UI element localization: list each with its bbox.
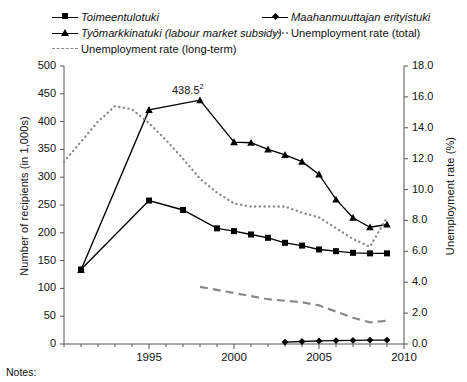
series-marker-2 bbox=[350, 337, 357, 344]
series-line-1 bbox=[81, 100, 387, 270]
y2-axis-tick-label: 8.0 bbox=[412, 213, 446, 225]
series-marker-0 bbox=[214, 225, 220, 231]
y-axis-tick-label: 350 bbox=[24, 142, 56, 154]
y-axis-tick-label: 150 bbox=[24, 254, 56, 266]
y-axis-tick-label: 250 bbox=[24, 198, 56, 210]
x-axis-tick-label: 2010 bbox=[382, 351, 426, 363]
peak-value-annotation: 438.52 bbox=[172, 82, 204, 96]
y2-axis-tick-label: 16.0 bbox=[412, 90, 446, 102]
series-marker-0 bbox=[299, 243, 305, 249]
annotation-value: 438.5 bbox=[172, 84, 200, 96]
chart-plot-area bbox=[0, 0, 467, 382]
y2-axis-tick-label: 6.0 bbox=[412, 244, 446, 256]
series-marker-2 bbox=[367, 337, 374, 344]
y-axis-tick-label: 300 bbox=[24, 170, 56, 182]
series-marker-0 bbox=[282, 240, 288, 246]
series-marker-0 bbox=[350, 250, 356, 256]
y2-axis-tick-label: 0.0 bbox=[412, 337, 446, 349]
series-marker-0 bbox=[231, 228, 237, 234]
y-axis-tick-label: 400 bbox=[24, 115, 56, 127]
series-marker-0 bbox=[248, 231, 254, 237]
notes-label: Notes: bbox=[6, 366, 36, 378]
series-line-0 bbox=[81, 201, 387, 270]
series-marker-1 bbox=[383, 221, 391, 228]
series-marker-1 bbox=[196, 96, 204, 103]
series-marker-0 bbox=[316, 246, 322, 252]
series-marker-0 bbox=[384, 250, 390, 256]
y-axis-tick-label: 100 bbox=[24, 281, 56, 293]
series-line-4 bbox=[200, 287, 387, 323]
series-marker-0 bbox=[180, 207, 186, 213]
y2-axis-tick-label: 12.0 bbox=[412, 152, 446, 164]
series-marker-2 bbox=[333, 337, 340, 344]
series-marker-2 bbox=[316, 338, 323, 345]
x-axis-tick-label: 2005 bbox=[297, 351, 341, 363]
y-axis-tick-label: 50 bbox=[24, 309, 56, 321]
series-line-3 bbox=[64, 106, 387, 247]
y-axis-tick-label: 0 bbox=[24, 337, 56, 349]
y-axis-tick-label: 500 bbox=[24, 59, 56, 71]
annotation-footnote-marker: 2 bbox=[200, 82, 204, 91]
figure-container: Toimeentulotuki Työmarkkinatuki (labour … bbox=[0, 0, 467, 382]
y-axis-tick-label: 200 bbox=[24, 226, 56, 238]
series-marker-0 bbox=[367, 250, 373, 256]
series-marker-0 bbox=[146, 198, 152, 204]
series-marker-2 bbox=[384, 337, 391, 344]
y2-axis-tick-label: 4.0 bbox=[412, 275, 446, 287]
y2-axis-tick-label: 14.0 bbox=[412, 121, 446, 133]
series-marker-0 bbox=[333, 248, 339, 254]
y2-axis-tick-label: 10.0 bbox=[412, 183, 446, 195]
x-axis-tick-label: 1995 bbox=[127, 351, 171, 363]
y2-axis-tick-label: 2.0 bbox=[412, 306, 446, 318]
y2-axis-tick-label: 18.0 bbox=[412, 59, 446, 71]
series-marker-0 bbox=[265, 235, 271, 241]
y-axis-tick-label: 450 bbox=[24, 87, 56, 99]
x-axis-tick-label: 2000 bbox=[212, 351, 256, 363]
